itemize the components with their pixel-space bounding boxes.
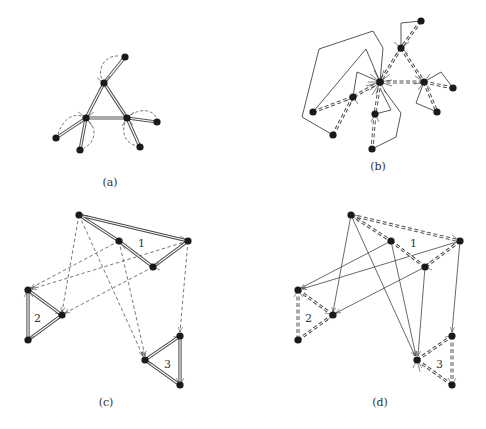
caption-d: (d) [372, 396, 388, 409]
panel-a-graph [52, 53, 160, 153]
cluster-label-c-3: 3 [164, 358, 171, 371]
caption-c: (c) [99, 396, 114, 409]
panel-d-graph: 1 2 3 [294, 211, 464, 388]
panel-c-graph: 1 2 3 [24, 211, 192, 388]
cluster-label-d-3: 3 [436, 358, 443, 371]
cluster-label-d-2: 2 [305, 312, 312, 325]
caption-b: (b) [370, 160, 386, 173]
figure-canvas: 1 2 3 [0, 0, 486, 429]
cluster-label-d-1: 1 [410, 237, 417, 250]
cluster-label-c-1: 1 [138, 237, 145, 250]
cluster-label-c-2: 2 [34, 312, 41, 325]
caption-a: (a) [102, 176, 117, 189]
panel-b-graph [302, 17, 457, 152]
